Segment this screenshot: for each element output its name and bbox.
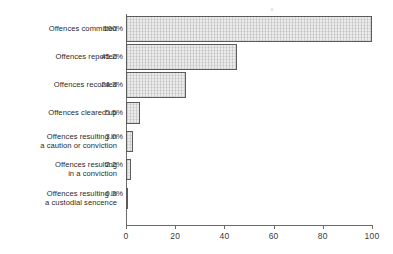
- x-axis-tick-label: 20: [170, 231, 180, 241]
- bar-row: Offences committed100%: [0, 16, 393, 42]
- value-label: 3.0%: [92, 132, 123, 142]
- bar-row: Offences reported45.2%: [0, 44, 393, 70]
- category-label-line: in a conviction: [7, 169, 117, 179]
- bar-row: Offences resulting ina custodial sencenc…: [0, 188, 393, 209]
- x-axis-tick: [274, 225, 275, 229]
- scan-artifact-speck: [271, 8, 273, 11]
- bar-chart: Offences committed100%Offences reported4…: [0, 0, 393, 254]
- x-axis-line: [126, 225, 373, 226]
- bar: [126, 159, 131, 180]
- x-axis-tick-label: 40: [219, 231, 229, 241]
- x-axis-tick-label: 100: [365, 231, 380, 241]
- category-label-line: a caution or conviction: [7, 141, 117, 151]
- value-label: 0.3%: [92, 189, 123, 199]
- value-label: 100%: [92, 24, 123, 34]
- x-axis-tick: [224, 225, 225, 229]
- x-axis-tick-label: 60: [269, 231, 279, 241]
- bar: [126, 72, 186, 98]
- bar: [126, 188, 128, 209]
- x-axis-tick-label: 80: [318, 231, 328, 241]
- bar: [126, 16, 372, 42]
- bar: [126, 102, 140, 124]
- bar-row: Offences resulting ina caution or convic…: [0, 131, 393, 152]
- value-label: 2.2%: [92, 160, 123, 170]
- value-label: 5.5%: [92, 108, 123, 118]
- bar-row: Offences recorded24.3%: [0, 72, 393, 98]
- value-label: 45.2%: [92, 52, 123, 62]
- value-label: 24.3%: [92, 80, 123, 90]
- x-axis-tick: [175, 225, 176, 229]
- x-axis-tick: [372, 225, 373, 229]
- x-axis-tick: [126, 225, 127, 229]
- bar-row: Offences cleared up5.5%: [0, 102, 393, 124]
- x-axis-tick: [323, 225, 324, 229]
- bar-row: Offences resultingin a conviction2.2%: [0, 159, 393, 180]
- category-label-line: a custodial sencence: [7, 198, 117, 208]
- x-axis-tick-label: 0: [124, 231, 129, 241]
- plot-area: Offences committed100%Offences reported4…: [0, 0, 393, 254]
- bar: [126, 44, 237, 70]
- bar: [126, 131, 133, 152]
